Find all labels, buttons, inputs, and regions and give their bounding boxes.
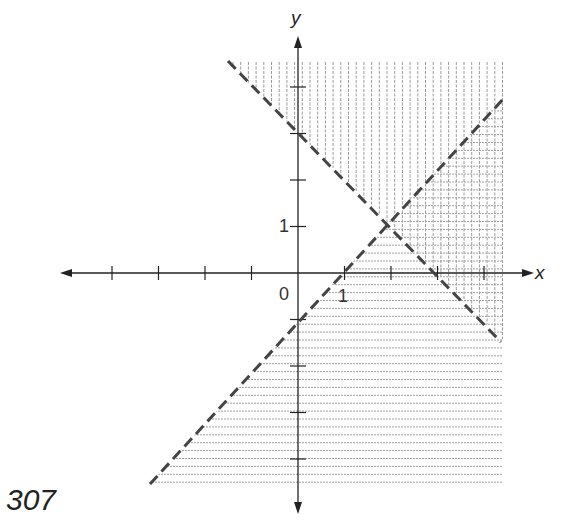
horizontal-hatch-region <box>140 103 503 482</box>
boundary-line-x-plus-y-equals-3 <box>228 61 501 342</box>
page-number: 307 <box>6 483 56 517</box>
x-tick-label-1: 1 <box>338 286 348 306</box>
y-axis-label: y <box>289 7 302 28</box>
vertical-hatch-region <box>233 62 503 345</box>
boundary-line-y-equals-x-minus-1 <box>150 97 505 484</box>
x-axis-label: x <box>534 262 546 283</box>
y-axis-down-arrow-icon <box>294 502 302 514</box>
y-axis-up-arrow-icon <box>294 36 302 48</box>
y-tick-label-1: 1 <box>279 216 289 236</box>
x-axis-right-arrow-icon <box>522 269 534 277</box>
inequality-graph: y x 0 1 1 <box>0 0 561 530</box>
x-axis-left-arrow-icon <box>60 269 72 277</box>
origin-label: 0 <box>279 284 289 304</box>
